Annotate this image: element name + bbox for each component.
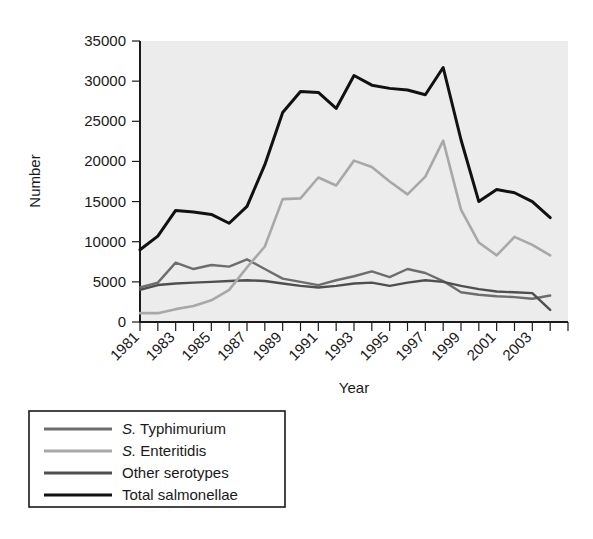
- x-tick-label: 1995: [356, 328, 392, 364]
- legend-label: S. Enteritidis: [122, 442, 206, 459]
- legend-label: S. Typhimurium: [122, 420, 226, 437]
- legend-label: Other serotypes: [122, 464, 229, 481]
- x-tick-label: 1997: [392, 328, 428, 364]
- x-tick-label: 2003: [499, 328, 535, 364]
- x-tick-label: 2001: [463, 328, 499, 364]
- salmonella-line-chart: 05000100001500020000250003000035000 1981…: [0, 0, 593, 539]
- y-tick-label: 35000: [84, 32, 126, 49]
- x-tick-label: 1987: [214, 328, 250, 364]
- y-tick-label: 0: [118, 313, 126, 330]
- x-tick-label: 1999: [428, 328, 464, 364]
- plot-area-background: [140, 41, 568, 322]
- y-tick-label: 25000: [84, 112, 126, 129]
- y-tick-label: 20000: [84, 152, 126, 169]
- x-axis-title: Year: [339, 379, 369, 396]
- y-axis-ticks: [132, 41, 140, 322]
- y-tick-label: 10000: [84, 233, 126, 250]
- x-tick-label: 1981: [107, 328, 143, 364]
- x-tick-label: 1985: [178, 328, 214, 364]
- y-axis-title: Number: [26, 154, 43, 207]
- y-tick-label: 5000: [93, 273, 126, 290]
- x-tick-label: 1983: [142, 328, 178, 364]
- legend-label: Total salmonellae: [122, 486, 238, 503]
- x-tick-label: 1989: [249, 328, 285, 364]
- x-axis-ticks: [140, 322, 568, 331]
- y-axis-tick-labels: 05000100001500020000250003000035000: [84, 32, 126, 330]
- x-axis-tick-labels: 1981198319851987198919911993199519971999…: [107, 328, 535, 364]
- x-tick-label: 1991: [285, 328, 321, 364]
- y-tick-label: 30000: [84, 72, 126, 89]
- y-tick-label: 15000: [84, 193, 126, 210]
- chart-figure: 05000100001500020000250003000035000 1981…: [0, 0, 593, 539]
- x-tick-label: 1993: [321, 328, 357, 364]
